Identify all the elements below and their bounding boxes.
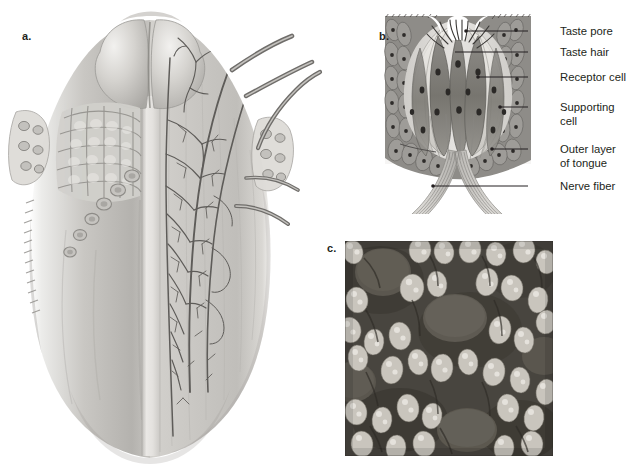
- label-outer-layer-line2: of tongue: [560, 157, 607, 171]
- figure-canvas: [0, 0, 638, 468]
- panel-letter-b: b.: [379, 30, 389, 42]
- label-supporting-cell-line2: cell: [560, 115, 577, 129]
- label-supporting-cell-line1: Supporting: [560, 101, 615, 115]
- panel-b-taste-bud: [383, 13, 531, 244]
- tongue-median-septum: [142, 96, 160, 456]
- panel-letter-a: a.: [22, 30, 32, 42]
- panel-c-micrograph: [328, 235, 566, 462]
- label-outer-layer-line1: Outer layer: [560, 143, 616, 157]
- label-nerve-fiber: Nerve fiber: [560, 180, 615, 194]
- panel-letter-c: c.: [327, 242, 337, 254]
- label-receptor-cell: Receptor cell: [560, 71, 626, 85]
- figure-root: a. b. c. Taste pore Taste hair Receptor …: [0, 0, 638, 468]
- tongue-papillae-field: [56, 102, 141, 202]
- label-taste-hair: Taste hair: [560, 46, 609, 60]
- label-taste-pore: Taste pore: [560, 25, 613, 39]
- panel-a-tongue: [9, 12, 320, 465]
